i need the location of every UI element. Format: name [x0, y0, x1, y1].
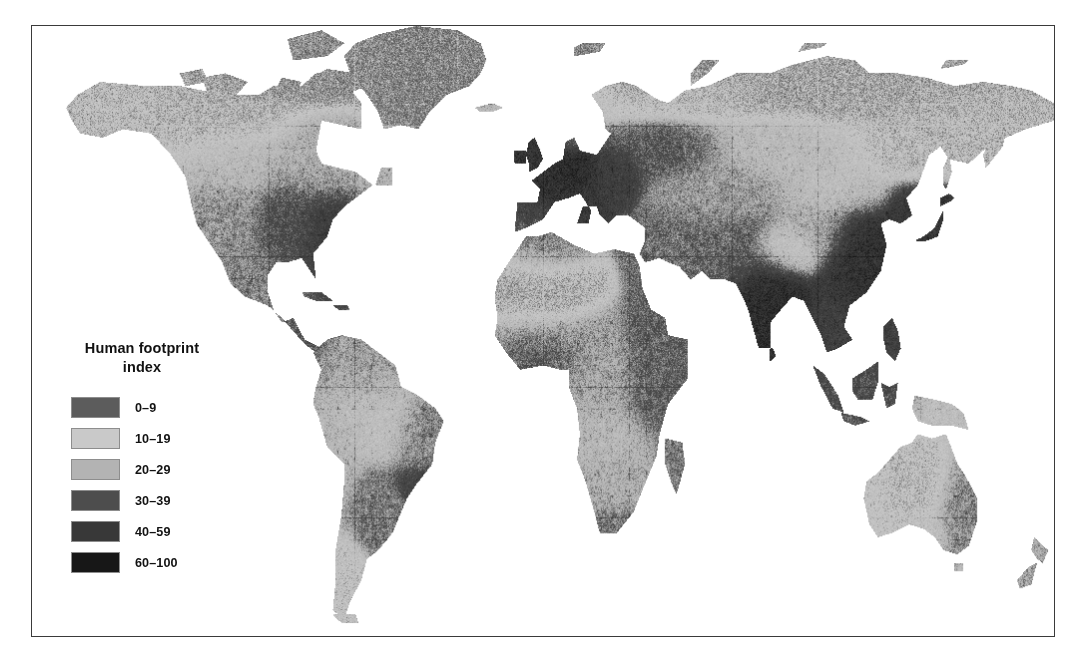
human-footprint-figure: Human footprint index 0–9 10–19 20–29 30… [0, 0, 1081, 668]
legend-title-line2: index [123, 359, 161, 375]
legend-item: 20–29 [71, 454, 249, 485]
legend-title-line1: Human footprint [85, 340, 199, 356]
legend-label-40-59: 40–59 [135, 525, 171, 539]
legend-label-20-29: 20–29 [135, 463, 171, 477]
map-legend: Human footprint index 0–9 10–19 20–29 30… [44, 339, 249, 578]
legend-swatch-60-100 [71, 552, 120, 573]
legend-label-30-39: 30–39 [135, 494, 171, 508]
legend-swatch-0-9 [71, 397, 120, 418]
legend-swatch-10-19 [71, 428, 120, 449]
legend-item: 10–19 [71, 423, 249, 454]
legend-item: 60–100 [71, 547, 249, 578]
legend-items: 0–9 10–19 20–29 30–39 40–59 60–100 [44, 392, 249, 578]
figure-caption [0, 645, 1081, 667]
legend-label-10-19: 10–19 [135, 432, 171, 446]
legend-swatch-20-29 [71, 459, 120, 480]
legend-item: 40–59 [71, 516, 249, 547]
legend-swatch-40-59 [71, 521, 120, 542]
legend-item: 30–39 [71, 485, 249, 516]
legend-title: Human footprint index [52, 339, 232, 377]
legend-item: 0–9 [71, 392, 249, 423]
legend-label-60-100: 60–100 [135, 556, 178, 570]
legend-swatch-30-39 [71, 490, 120, 511]
legend-label-0-9: 0–9 [135, 401, 156, 415]
